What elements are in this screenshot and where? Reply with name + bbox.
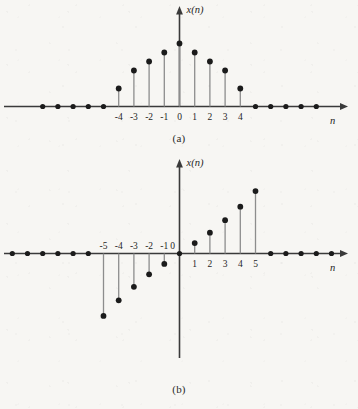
stem-plot-panel-b: x(n)n-5-4-3-2-1012345 [0,158,358,409]
zero-sample-dot [25,251,30,256]
stem-dot [237,86,243,92]
x-tick-label: 2 [208,112,213,122]
zero-sample-dot [71,104,76,109]
stem-dot [101,313,107,319]
stem-dot [207,230,213,236]
zero-sample-dot [283,251,288,256]
stem-dot [222,68,228,74]
zero-sample-dot [177,251,182,256]
zero-sample-dot [40,251,45,256]
stem-dot [131,284,137,290]
x-tick-label-positive: 2 [208,259,213,269]
stem-dot [192,50,198,56]
x-tick-label-positive: 5 [253,259,258,269]
zero-sample-dot [268,251,273,256]
stem-dot [207,59,213,65]
zero-sample-dot [299,104,304,109]
y-axis-label-b: x(n) [186,158,204,169]
x-tick-label: 3 [223,112,228,122]
zero-sample-dot [283,104,288,109]
stem-dot [161,261,167,267]
stem-dot [146,271,152,277]
x-tick-label: 4 [238,112,243,122]
zero-sample-dot [71,251,76,256]
x-axis-arrowhead-b [340,250,348,257]
x-axis-label-a: n [330,115,335,126]
zero-sample-dot [55,104,60,109]
x-tick-label-positive: 4 [238,259,243,269]
y-axis-arrowhead-a [176,6,183,15]
caption-b: (b) [0,383,358,395]
zero-sample-dot [299,251,304,256]
x-tick-label-positive: 1 [192,259,197,269]
x-tick-label-negative: -5 [100,241,108,251]
zero-sample-dot [86,251,91,256]
x-tick-label: -1 [160,112,168,122]
x-tick-label: 0 [177,112,182,122]
stem-dot [222,217,228,223]
zero-sample-dot [101,104,106,109]
figure-root: x(n)n-4-3-2-101234 (a) x(n)n-5-4-3-2-101… [0,0,358,409]
zero-sample-dot [268,104,273,109]
stem-dot [116,86,122,92]
x-tick-label-zero: 0 [170,241,175,251]
x-tick-label: 1 [192,112,197,122]
stem-dot [192,240,198,246]
stem-dot [161,50,167,56]
zero-sample-dot [314,104,319,109]
zero-sample-dot [253,104,258,109]
zero-sample-dot [86,104,91,109]
stem-dot [116,297,122,303]
x-axis-label-b: n [330,262,335,273]
stem-dot [177,41,183,47]
x-tick-label-negative: -2 [145,241,153,251]
x-axis-arrowhead-a [340,103,348,110]
y-axis-label-a: x(n) [186,4,204,16]
zero-sample-dot [55,251,60,256]
stem-plot-b-canvas: x(n)n-5-4-3-2-1012345 [0,158,358,409]
stem-dot [146,59,152,65]
x-tick-label-negative: -4 [115,241,123,251]
stem-dot [253,188,259,194]
x-tick-label: -2 [145,112,153,122]
zero-sample-dot [10,251,15,256]
zero-sample-dot [40,104,45,109]
x-tick-label-positive: 3 [223,259,228,269]
y-axis-arrowhead-b [176,159,183,168]
x-tick-label-negative: -3 [130,241,138,251]
x-tick-label-negative: -1 [160,241,168,251]
zero-sample-dot [329,251,334,256]
x-tick-label: -3 [130,112,138,122]
stem-dot [131,68,137,74]
zero-sample-dot [314,251,319,256]
caption-a: (a) [0,132,358,144]
x-tick-label: -4 [115,112,123,122]
stem-dot [237,204,243,210]
